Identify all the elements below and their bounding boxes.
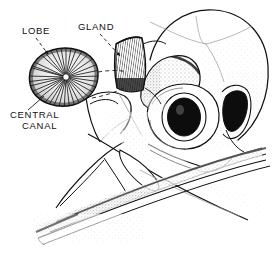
label-lobe: LOBE [22, 25, 50, 36]
label-central-canal-line-2: CANAL [22, 120, 57, 131]
label-gland: GLAND [78, 21, 114, 32]
salt-gland-figure: LOBE GLAND CENTRAL CANAL [0, 0, 276, 257]
label-central-canal-line-1: CENTRAL [10, 109, 59, 120]
skull-diagram-svg: LOBE GLAND CENTRAL CANAL [0, 0, 276, 257]
central-canal [63, 74, 69, 80]
eye-highlight [176, 105, 184, 115]
eye-aperture [168, 98, 201, 136]
